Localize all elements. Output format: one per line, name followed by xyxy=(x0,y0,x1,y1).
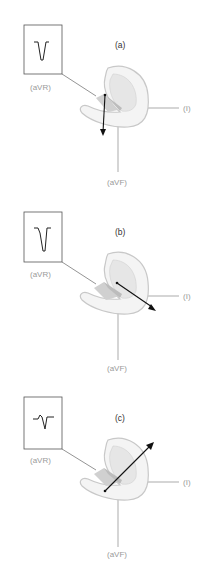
avf-label: (aVF) xyxy=(107,178,127,187)
avr-label: (aVR) xyxy=(30,456,51,465)
heart-icon xyxy=(80,66,148,127)
ecg-box xyxy=(24,212,62,262)
avr-label: (aVR) xyxy=(30,83,51,92)
avr-label: (aVR) xyxy=(30,270,51,279)
panel-a: (a) (aVR) (I) (aVF) xyxy=(0,0,206,190)
heart-icon xyxy=(80,252,148,314)
heart-diagram-b xyxy=(0,190,206,380)
avr-lead-line xyxy=(62,262,96,284)
avf-label: (aVF) xyxy=(107,364,127,373)
heart-diagram-c xyxy=(0,380,206,570)
avf-label: (aVF) xyxy=(107,550,127,559)
panel-c: (c) (aVR) (I) (aVF) xyxy=(0,380,206,570)
panel-title: (c) xyxy=(115,413,125,423)
panel-title: (a) xyxy=(115,40,125,50)
heart-icon xyxy=(80,438,148,500)
avr-lead-line xyxy=(62,74,96,96)
ecg-box xyxy=(24,25,62,74)
panel-b: (b) (aVR) (I) (aVF) xyxy=(0,190,206,380)
avr-lead-line xyxy=(62,449,96,470)
heart-diagram-a xyxy=(0,0,206,190)
lead-i-label: (I) xyxy=(183,478,191,487)
lead-i-label: (I) xyxy=(183,104,191,113)
panel-title: (b) xyxy=(115,227,125,237)
lead-i-label: (I) xyxy=(183,292,191,301)
